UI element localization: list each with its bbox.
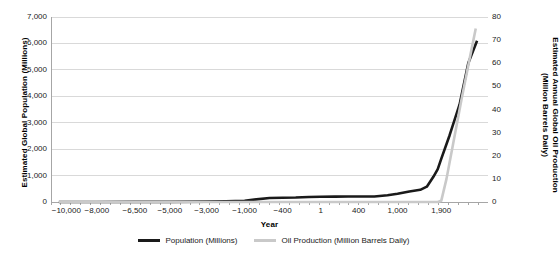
legend-item[interactable]: Population (Millions) [138, 236, 237, 245]
chart-legend: Population (Millions)Oil Production (Mil… [0, 236, 548, 245]
plot-area [51, 17, 488, 202]
chart-svg [51, 17, 488, 210]
y-axis-right-title-line1: Estimated Annual Global Oil Production [551, 37, 560, 193]
legend-swatch-icon [138, 239, 160, 242]
x-axis-title: Year [51, 220, 488, 229]
legend-item[interactable]: Oil Production (Million Barrels Daily) [254, 236, 409, 245]
legend-item-label: Oil Production (Million Barrels Daily) [281, 236, 409, 245]
legend-swatch-icon [254, 239, 276, 242]
legend-item-label: Population (Millions) [165, 236, 237, 245]
series-line [59, 41, 477, 202]
